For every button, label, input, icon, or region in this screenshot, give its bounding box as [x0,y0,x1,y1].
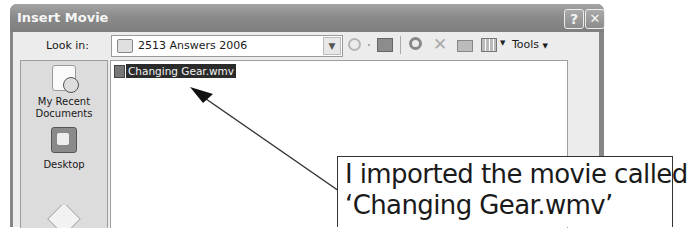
callout-line-1: I imported the movie called [345,159,688,189]
callout-line-2: ‘Changing Gear.wmv’ [345,190,613,220]
callout-box: I imported the movie called ‘Changing Ge… [337,156,673,227]
